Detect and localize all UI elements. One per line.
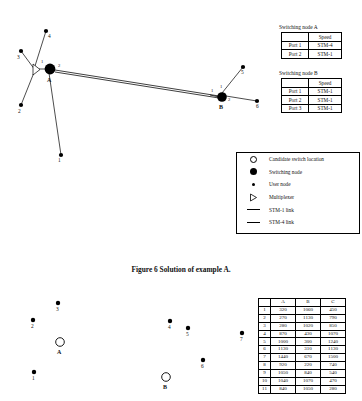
data-table-cell-A-7: 1440 <box>271 354 296 362</box>
bottom-user-node-4-label: 4 <box>168 324 171 330</box>
data-table-cell-C-2: 790 <box>321 314 346 322</box>
data-table-cell-B-5: 300 <box>296 338 321 346</box>
data-table-cell-C-3: 850 <box>321 322 346 330</box>
bottom-user-node-group <box>31 301 244 374</box>
table-row: 118401050280 <box>259 385 346 393</box>
data-table-cell-C-4: 1070 <box>321 330 346 338</box>
data-table-cell-B-2: 1130 <box>296 314 321 322</box>
data-table-row-index: 8 <box>259 362 271 370</box>
data-table-cell-B-6: 310 <box>296 346 321 354</box>
bottom-user-node-3 <box>56 301 60 305</box>
data-table-header-C: C <box>321 299 346 307</box>
table-row: 32801020850 <box>259 322 346 330</box>
data-table-cell-A-6: 1130 <box>271 346 296 354</box>
data-table-cell-B-8: 220 <box>296 362 321 370</box>
data-table-row-index: 11 <box>259 385 271 393</box>
data-table-cell-B-1: 1060 <box>296 306 321 314</box>
data-table-cell-C-6: 1130 <box>321 346 346 354</box>
data-table-row-index: 9 <box>259 369 271 377</box>
table-row: 48704301070 <box>259 330 346 338</box>
data-table-cell-A-3: 280 <box>271 322 296 330</box>
bottom-user-node-3-label: 3 <box>56 306 59 312</box>
data-table-cell-A-8: 920 <box>271 362 296 370</box>
coordinate-data-table: ABC1320106045022701130790328010208504870… <box>258 298 346 394</box>
candidate-location-B-label: B <box>163 384 167 390</box>
data-table-row-index: 2 <box>259 314 271 322</box>
table-row: 22701130790 <box>259 314 346 322</box>
bottom-user-node-6 <box>201 358 205 362</box>
data-table-cell-A-11: 840 <box>271 385 296 393</box>
data-table-cell-B-11: 1050 <box>296 385 321 393</box>
data-table-row-index: 5 <box>259 338 271 346</box>
data-table-cell-B-9: 840 <box>296 369 321 377</box>
table-row: 91050840540 <box>259 369 346 377</box>
data-table-row-index: 3 <box>259 322 271 330</box>
bottom-user-node-6-label: 6 <box>201 363 204 369</box>
bottom-user-node-5-label: 5 <box>186 331 189 337</box>
data-table-cell-B-3: 1020 <box>296 322 321 330</box>
data-table-row-index: 7 <box>259 354 271 362</box>
candidate-location-A <box>56 338 65 347</box>
table-row: 510003001240 <box>259 338 346 346</box>
bottom-candidate-group <box>56 338 171 382</box>
bottom-user-node-1 <box>32 370 36 374</box>
data-table-row-index: 10 <box>259 377 271 385</box>
data-table-cell-C-9: 540 <box>321 369 346 377</box>
data-table-cell-C-10: 470 <box>321 377 346 385</box>
table-row: 1010401070470 <box>259 377 346 385</box>
bottom-user-node-7-label: 7 <box>240 336 243 342</box>
bottom-user-node-5 <box>186 326 190 330</box>
table-row: 714406701500 <box>259 354 346 362</box>
data-table-cell-A-4: 870 <box>271 330 296 338</box>
bottom-user-node-4 <box>168 319 172 323</box>
data-table-cell-C-7: 1500 <box>321 354 346 362</box>
data-table-cell-A-5: 1000 <box>271 338 296 346</box>
data-table-cell-A-10: 1040 <box>271 377 296 385</box>
data-table-row-index: 1 <box>259 306 271 314</box>
data-table-cell-C-8: 740 <box>321 362 346 370</box>
data-table-cell-A-9: 1050 <box>271 369 296 377</box>
bottom-user-node-2-label: 2 <box>31 323 34 329</box>
data-table-row-index: 4 <box>259 330 271 338</box>
data-table-cell-B-10: 1070 <box>296 377 321 385</box>
table-row: 8920220740 <box>259 362 346 370</box>
bottom-user-node-2 <box>31 318 35 322</box>
data-table-corner <box>259 299 271 307</box>
table-row: 611303101130 <box>259 346 346 354</box>
data-table-cell-B-7: 670 <box>296 354 321 362</box>
data-table-cell-B-4: 430 <box>296 330 321 338</box>
data-table-cell-C-5: 1240 <box>321 338 346 346</box>
data-table-cell-A-2: 270 <box>271 314 296 322</box>
table-header-row: ABC <box>259 299 346 307</box>
bottom-user-node-7 <box>240 331 244 335</box>
bottom-user-node-1-label: 1 <box>32 375 35 381</box>
data-table-cell-C-11: 280 <box>321 385 346 393</box>
data-table-cell-A-1: 320 <box>271 306 296 314</box>
data-table-cell-C-1: 450 <box>321 306 346 314</box>
data-table-header-B: B <box>296 299 321 307</box>
data-table-header-A: A <box>271 299 296 307</box>
table-row: 13201060450 <box>259 306 346 314</box>
candidate-location-A-label: A <box>57 349 61 355</box>
candidate-location-B <box>162 373 171 382</box>
data-table-row-index: 6 <box>259 346 271 354</box>
figure-page: 1 2 3 4 5 6 A B 1 2 1 1 2 Switching node… <box>0 0 362 401</box>
